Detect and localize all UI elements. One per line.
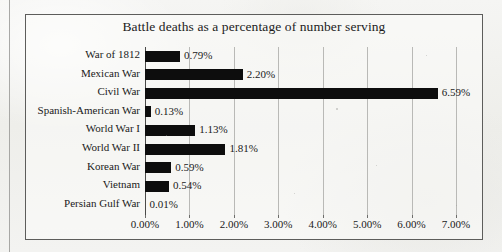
category-label-wrap: World War II [26,140,145,159]
bar [145,125,195,136]
category-label: War of 1812 [27,48,145,60]
bar-value-label: 0.54% [173,179,201,191]
bar-value-label: 1.81% [229,142,257,154]
x-tick-label: 7.00% [431,218,481,230]
category-label-wrap: Spanish-American War [26,103,145,122]
category-label-wrap: Persian Gulf War [26,196,145,215]
bar [145,144,225,155]
x-tick-label: 6.00% [387,218,437,230]
paper-speck [376,165,377,166]
x-tick-label: 3.00% [253,218,303,230]
bar-value-label: 2.20% [247,68,275,80]
bar [145,106,151,117]
bar-value-label: 0.01% [149,198,177,210]
category-label: Mexican War [27,67,145,79]
category-label-wrap: War of 1812 [26,47,145,66]
chart-title: Battle deaths as a percentage of number … [26,19,482,35]
paper-speck [231,229,232,230]
paper-speck [166,135,167,136]
chart-container: Battle deaths as a percentage of number … [25,14,483,240]
x-tick-label: 1.00% [164,218,214,230]
bar [145,69,243,80]
bar-value-label: 0.13% [155,105,183,117]
category-label-wrap: Korean War [26,159,145,178]
paper-speck [294,193,295,194]
x-tick-label: 4.00% [298,218,348,230]
gridline-7.00 [456,47,457,215]
category-label: Spanish-American War [27,104,145,116]
bar-value-label: 6.59% [442,86,470,98]
page-margin-rule [9,0,10,252]
category-label-wrap: World War I [26,121,145,140]
paper-speck [426,55,427,56]
gridline-6.00 [412,47,413,215]
category-label-wrap: Mexican War [26,66,145,85]
x-tick-label: 5.00% [342,218,392,230]
bar-value-label: 0.59% [175,161,203,173]
category-label: Vietnam [27,178,145,190]
x-tick-label: 2.00% [209,218,259,230]
bar-value-label: 0.79% [184,49,212,61]
category-label: World War II [27,141,145,153]
category-label: Civil War [27,85,145,97]
category-label-wrap: Civil War [26,84,145,103]
category-label: Korean War [27,160,145,172]
bar [145,181,169,192]
bar [145,51,180,62]
bar-value-label: 1.13% [199,123,227,135]
category-label: World War I [27,122,145,134]
x-tick-label: 0.00% [120,218,170,230]
gridline-4.00 [323,47,324,215]
category-label-wrap: Vietnam [26,177,145,196]
gridline-3.00 [278,47,279,215]
paper-speck [336,108,338,110]
bar [145,162,171,173]
bar [145,88,438,99]
category-label: Persian Gulf War [27,197,145,209]
gridline-5.00 [367,47,368,215]
